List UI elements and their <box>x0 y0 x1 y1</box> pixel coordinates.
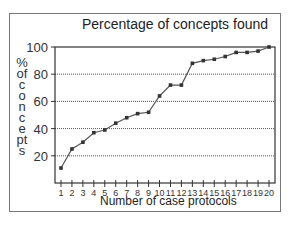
data-point-marker <box>223 55 227 59</box>
x-tick-label: 11 <box>166 188 175 198</box>
x-tick-label: 4 <box>91 188 96 198</box>
x-tick-label: 2 <box>69 188 74 198</box>
x-tick-label: 18 <box>242 188 252 198</box>
data-point-marker <box>245 51 249 55</box>
x-tick-label: 6 <box>113 188 118 198</box>
data-point-marker <box>180 83 184 87</box>
x-tick-label: 1 <box>58 188 63 198</box>
data-point-marker <box>256 49 260 53</box>
plot-area <box>55 47 275 183</box>
data-point-marker <box>81 140 85 144</box>
x-tick-label: 9 <box>146 188 151 198</box>
x-tick-label: 15 <box>209 188 219 198</box>
data-point-marker <box>202 59 206 63</box>
x-tick-label: 3 <box>80 188 85 198</box>
line-chart: 2040608010012345678910111213141516171819… <box>0 0 292 227</box>
y-tick-label: 60 <box>34 94 48 109</box>
data-point-marker <box>212 57 216 61</box>
x-tick-label: 7 <box>124 188 129 198</box>
x-tick-label: 12 <box>176 188 186 198</box>
y-tick-label: 100 <box>26 40 48 55</box>
x-tick-label: 10 <box>155 188 165 198</box>
y-tick-label: 80 <box>34 67 48 82</box>
x-tick-label: 14 <box>198 188 208 198</box>
data-point-marker <box>191 62 195 66</box>
y-tick-label: 20 <box>34 149 48 164</box>
data-point-marker <box>125 116 129 120</box>
y-tick-label: 40 <box>34 122 48 137</box>
data-point-marker <box>136 112 140 116</box>
data-point-marker <box>92 131 96 135</box>
x-tick-label: 20 <box>264 188 274 198</box>
x-tick-label: 17 <box>231 188 241 198</box>
x-tick-label: 16 <box>220 188 230 198</box>
data-point-marker <box>147 110 151 114</box>
x-tick-label: 13 <box>187 188 197 198</box>
data-point-marker <box>59 166 63 170</box>
data-point-marker <box>158 94 162 98</box>
data-point-marker <box>70 147 74 151</box>
data-point-marker <box>234 51 238 55</box>
x-tick-label: 19 <box>253 188 263 198</box>
x-tick-label: 5 <box>102 188 107 198</box>
data-point-marker <box>169 83 173 87</box>
data-point-marker <box>114 121 118 125</box>
data-line <box>61 47 269 168</box>
data-point-marker <box>267 45 271 49</box>
data-point-marker <box>103 128 107 132</box>
x-tick-label: 8 <box>135 188 140 198</box>
